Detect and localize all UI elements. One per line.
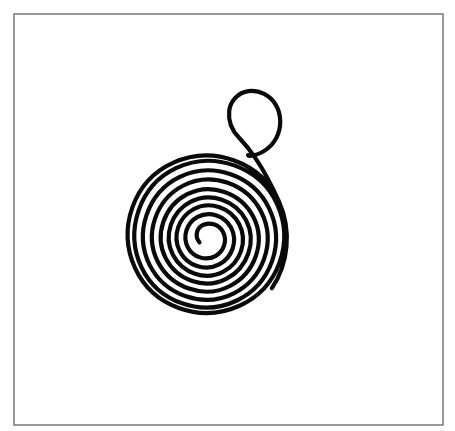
figure-canvas: Spiral with Loop Line Drawing Hand-drawn… — [0, 0, 455, 431]
line-drawing-svg — [0, 0, 455, 431]
border-frame — [14, 14, 443, 425]
